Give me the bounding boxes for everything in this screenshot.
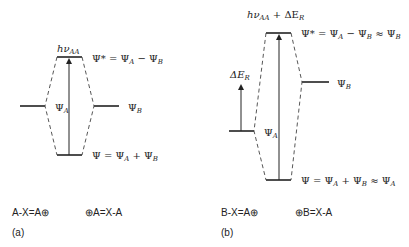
bonding-label-b: Ψ = ΨA + ΨB ≈ ΨA bbox=[301, 175, 396, 188]
correlation-line-left-b bbox=[254, 33, 266, 180]
resonance-left-b: B-X=A⊕ bbox=[221, 207, 258, 218]
resonance-left-a: A-X=A⊕ bbox=[12, 207, 49, 218]
panel-label-b: (b) bbox=[221, 227, 233, 238]
antibonding-label-a: Ψ* = ΨA − ΨB bbox=[92, 53, 163, 66]
mo-diagram: hνAA Ψ* = ΨA − ΨB ΨA ΨB Ψ = ΨA + ΨB A-X=… bbox=[0, 0, 409, 247]
psi-b-label-b: ΨB bbox=[337, 78, 351, 91]
correlation-line-right-a bbox=[82, 57, 94, 155]
antibonding-label-b: Ψ* = ΨA − ΨB ≈ ΨB bbox=[301, 28, 401, 41]
panel-a: hνAA Ψ* = ΨA − ΨB ΨA ΨB Ψ = ΨA + ΨB A-X=… bbox=[12, 43, 163, 238]
psi-b-label-a: ΨB bbox=[128, 102, 142, 115]
panel-b: hνAA + ΔER Ψ* = ΨA − ΨB ≈ ΨB ΔER ΨB ΨA Ψ… bbox=[221, 9, 401, 238]
transition-label-a: hνAA bbox=[57, 43, 80, 56]
energy-gap-label-b: ΔER bbox=[229, 69, 251, 82]
resonance-right-b: ⊕B=X-A bbox=[295, 207, 333, 218]
resonance-right-a: ⊕A=X-A bbox=[85, 207, 123, 218]
panel-label-a: (a) bbox=[12, 227, 24, 238]
transition-label-b: hνAA + ΔER bbox=[247, 9, 305, 22]
psi-a-label-a: ΨA bbox=[55, 102, 69, 115]
bonding-label-a: Ψ = ΨA + ΨB bbox=[92, 150, 158, 163]
psi-a-label-b: ΨA bbox=[264, 127, 278, 140]
correlation-line-right-b bbox=[291, 33, 302, 180]
